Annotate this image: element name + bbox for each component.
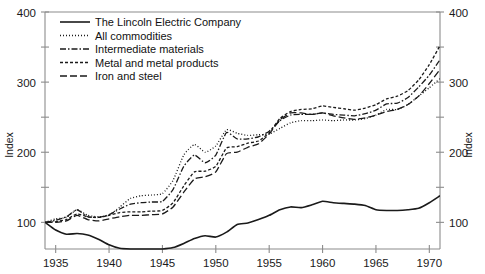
chart-legend: The Lincoln Electric CompanyAll commodit…: [60, 16, 242, 82]
y-tick-label-left: 200: [17, 147, 36, 159]
y-axis-title-right: Index: [462, 131, 474, 157]
y-tick-label-right: 100: [449, 217, 468, 229]
x-tick-label: 1940: [96, 257, 122, 269]
line-chart: 1001002002003003004004001935194019451950…: [0, 0, 485, 274]
x-tick-label: 1960: [310, 257, 336, 269]
chart-container: 1001002002003003004004001935194019451950…: [0, 0, 485, 274]
x-tick-label: 1965: [363, 257, 389, 269]
y-tick-label-right: 300: [449, 77, 468, 89]
y-tick-label-left: 400: [17, 7, 36, 19]
series-line-1: [45, 79, 440, 223]
y-tick-label-left: 100: [17, 217, 36, 229]
legend-label-4: Iron and steel: [95, 70, 162, 82]
x-tick-label: 1935: [43, 257, 69, 269]
series-line-0: [45, 196, 440, 249]
y-tick-label-right: 400: [449, 7, 468, 19]
series-line-2: [45, 60, 440, 223]
legend-label-0: The Lincoln Electric Company: [95, 16, 242, 28]
y-tick-label-left: 300: [17, 77, 36, 89]
legend-label-1: All commodities: [95, 30, 173, 42]
x-tick-label: 1970: [417, 257, 443, 269]
x-tick-label: 1945: [150, 257, 176, 269]
series-line-4: [45, 70, 440, 223]
legend-label-3: Metal and metal products: [95, 57, 219, 69]
legend-label-2: Intermediate materials: [95, 43, 204, 55]
x-tick-label: 1955: [256, 257, 282, 269]
x-tick-label: 1950: [203, 257, 229, 269]
y-axis-title-left: Index: [3, 131, 15, 157]
